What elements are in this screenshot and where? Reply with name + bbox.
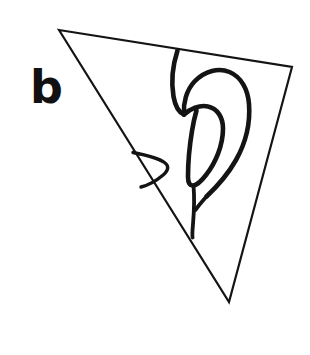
line-drawing-canvas [0,0,310,355]
panel-label: b [30,64,63,110]
antitragus-lobule-line-path [192,186,194,238]
figure-panel: b [0,0,310,355]
